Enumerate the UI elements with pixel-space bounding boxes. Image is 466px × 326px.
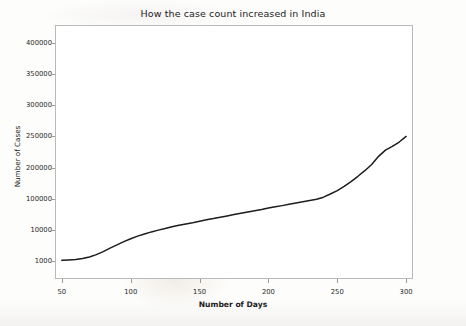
y-tick-mark (51, 199, 55, 200)
y-tick-mark (51, 261, 55, 262)
x-tick-label: 150 (193, 288, 206, 296)
x-tick-label: 250 (331, 288, 344, 296)
x-tick-mark (131, 279, 132, 283)
y-tick-mark (51, 43, 55, 44)
x-tick-label: 50 (58, 288, 67, 296)
x-tick-label: 200 (262, 288, 275, 296)
y-axis-title: Number of Cases (13, 102, 22, 212)
y-tick-mark (51, 74, 55, 75)
x-tick-mark (200, 279, 201, 283)
y-tick-mark (51, 136, 55, 137)
x-tick-label: 100 (124, 288, 137, 296)
x-tick-mark (337, 279, 338, 283)
x-tick-mark (62, 279, 63, 283)
y-tick-label: 350000 (10, 70, 52, 78)
y-tick-label: 1000 (10, 257, 52, 265)
y-tick-mark (51, 168, 55, 169)
y-tick-mark (51, 230, 55, 231)
chart-figure: How the case count increased in India 10… (0, 0, 466, 326)
y-tick-label: 400000 (10, 39, 52, 47)
chart-title: How the case count increased in India (0, 8, 466, 19)
x-tick-mark (268, 279, 269, 283)
case-count-line (55, 25, 413, 279)
x-tick-label: 300 (400, 288, 413, 296)
series-layer (55, 25, 413, 279)
x-tick-mark (406, 279, 407, 283)
y-tick-mark (51, 105, 55, 106)
y-tick-label: 10000 (10, 226, 52, 234)
x-axis-title: Number of Days (0, 300, 466, 309)
